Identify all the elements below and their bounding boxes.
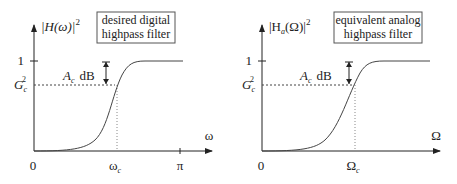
tick-zero: 0 [258, 158, 265, 173]
tick-gc2: Gc2 [242, 75, 255, 94]
title-line-1: desired digital [102, 13, 171, 27]
attenuation-label: AcdB [62, 68, 95, 85]
analog-filter-plot: |Ha(Ω)|2 equivalent analog highpass filt… [242, 12, 441, 175]
y-axis-label: |Ha(Ω)|2 [269, 17, 310, 36]
tick-zero: 0 [30, 158, 37, 173]
tick-pi: π [177, 158, 184, 173]
tick-gc2: Gc2 [14, 75, 27, 94]
attenuation-label: AcdB [299, 68, 332, 85]
tick-one: 1 [246, 53, 253, 68]
tick-one: 1 [18, 53, 25, 68]
tick-omega-c: ωc [109, 158, 122, 175]
digital-filter-plot: |H(ω)|2 desired digital highpass filter … [14, 12, 214, 175]
y-axis-label: |H(ω)|2 [41, 17, 80, 34]
title-line-1: equivalent analog [336, 13, 421, 27]
title-line-2: highpass filter [344, 27, 412, 41]
magnitude-curve [34, 61, 183, 151]
x-axis-label: ω [205, 128, 214, 143]
magnitude-curve [262, 61, 430, 151]
x-axis-label: Ω [431, 128, 441, 143]
title-line-2: highpass filter [102, 27, 170, 41]
highpass-filter-diagram: |H(ω)|2 desired digital highpass filter … [0, 0, 457, 184]
tick-omega-c: Ωc [346, 158, 360, 175]
